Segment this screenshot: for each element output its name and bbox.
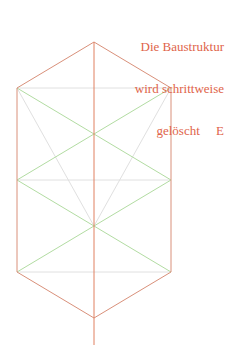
caption-line-1: Die Baustruktur (135, 40, 224, 54)
caption-line-2: wird schrittweise (135, 82, 224, 96)
caption: Die Baustruktur wird schrittweise gelösc… (135, 12, 224, 152)
caption-line-3: gelöscht E (135, 124, 224, 138)
